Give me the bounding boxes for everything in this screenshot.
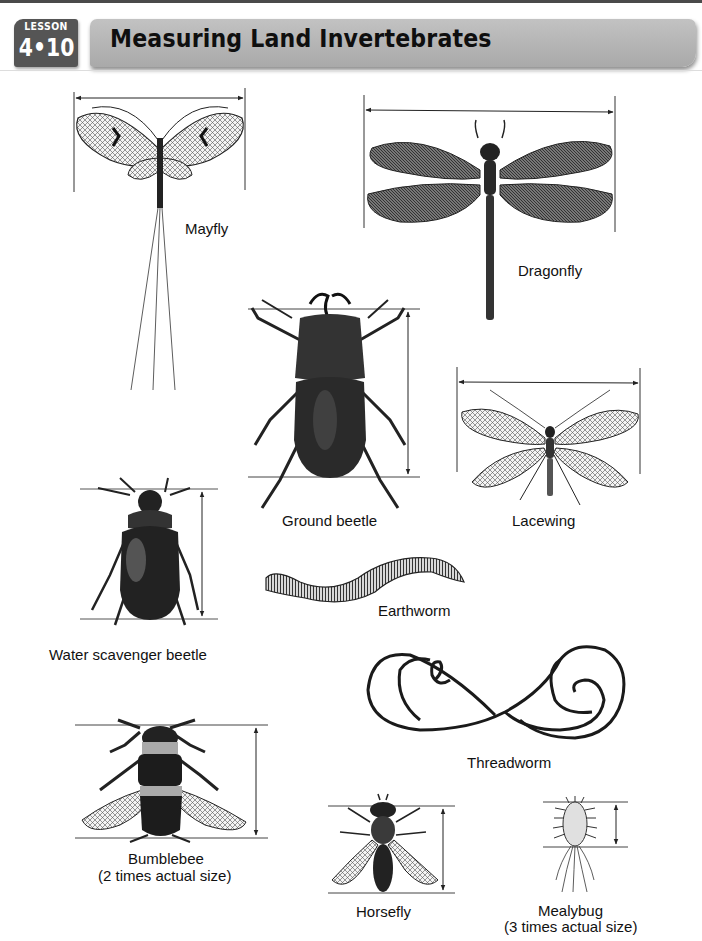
- mealybug-scale-note: (3 times actual size): [504, 918, 637, 935]
- mealybug-icon: [0, 0, 702, 941]
- mealybug-label: Mealybug: [538, 902, 603, 919]
